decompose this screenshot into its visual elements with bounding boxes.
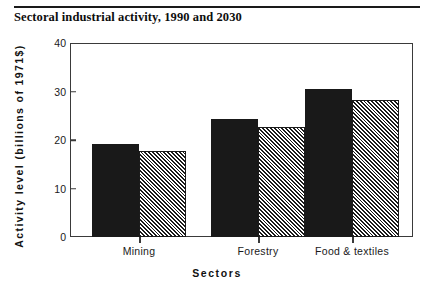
- x-axis-label-mining: Mining: [123, 245, 156, 257]
- bar-2030-mining: [139, 151, 186, 237]
- x-axis-label-forestry: Forestry: [238, 245, 279, 257]
- bar-1990-food-textiles: [305, 89, 352, 237]
- y-axis-tick-label: 40: [42, 37, 66, 49]
- bar-1990-mining: [92, 144, 139, 237]
- x-axis-label-food-textiles: Food & textiles: [315, 245, 389, 257]
- bar-2030-food-textiles: [352, 100, 399, 237]
- x-axis-title: Sectors: [0, 267, 434, 279]
- bar-2030-forestry: [258, 127, 305, 237]
- x-axis-tick-mark: [139, 237, 141, 243]
- x-axis-tick-mark: [258, 237, 260, 243]
- y-axis-title: Activity level (billions of 1971$): [13, 31, 25, 261]
- y-axis-tick-label: 30: [42, 86, 66, 98]
- bars-layer: [70, 43, 413, 237]
- y-axis-tick-label: 0: [42, 231, 66, 243]
- x-axis-tick-mark: [352, 237, 354, 243]
- chart-figure: 010203040 Activity level (billions of 19…: [0, 0, 434, 291]
- bar-1990-forestry: [211, 119, 258, 237]
- y-axis-tick-labels: 010203040: [38, 0, 66, 291]
- y-axis-tick-label: 10: [42, 183, 66, 195]
- y-axis-tick-label: 20: [42, 134, 66, 146]
